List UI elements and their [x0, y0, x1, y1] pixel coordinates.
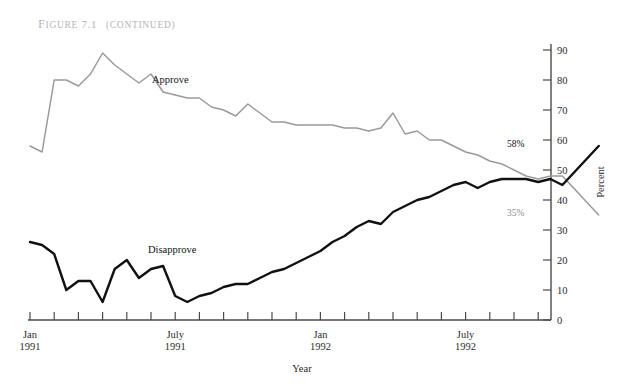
x-axis-major-labels: Jan1991July1991Jan1992July1992	[20, 329, 477, 352]
x-axis-label-month: Jan	[23, 329, 38, 340]
series-label-disapprove: Disapprove	[148, 244, 197, 255]
x-axis-label-month: Jan	[313, 329, 328, 340]
series-line-approve	[30, 53, 599, 215]
x-axis-label-month: July	[457, 329, 475, 340]
x-axis-label-year: 1992	[310, 341, 331, 352]
end-value-approve: 35%	[507, 208, 525, 218]
x-axis	[28, 312, 551, 320]
y-axis-tick-label: 50	[557, 165, 568, 176]
x-axis-ticks	[30, 312, 538, 320]
y-axis-tick-label: 60	[557, 135, 568, 146]
y-axis-tick-label: 20	[557, 255, 568, 266]
line-chart: 0102030405060708090 Approve Disapprove 5…	[0, 0, 637, 384]
end-value-disapprove: 58%	[507, 139, 525, 149]
x-axis-title: Year	[292, 363, 312, 374]
series-label-approve: Approve	[152, 74, 189, 85]
figure-container: FIGURE 7.1(CONTINUED) 010203040506070809…	[0, 0, 637, 384]
y-axis-tick-label: 10	[557, 285, 568, 296]
y-axis-tick-label: 30	[557, 225, 568, 236]
x-axis-label-month: July	[166, 329, 184, 340]
y-axis-tick-label: 40	[557, 195, 568, 206]
y-axis-title: Percent	[595, 166, 606, 198]
x-axis-label-year: 1991	[20, 341, 41, 352]
y-axis-tick-label: 80	[557, 75, 568, 86]
x-axis-label-year: 1992	[455, 341, 476, 352]
y-axis-tick-label: 0	[557, 315, 562, 326]
y-axis-tick-label: 70	[557, 105, 568, 116]
x-axis-label-year: 1991	[165, 341, 186, 352]
y-axis-tick-label: 90	[557, 45, 568, 56]
